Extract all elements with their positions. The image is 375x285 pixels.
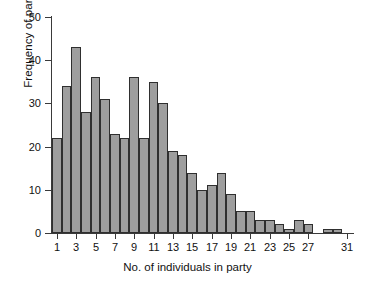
bar [217,173,227,233]
bar [333,229,343,233]
x-tick-mark [347,234,348,239]
x-tick-label: 31 [335,241,359,253]
y-tick-mark [45,147,51,148]
x-tick-mark [250,234,251,239]
x-tick-mark [192,234,193,239]
y-tick-label: 20 [1,142,41,152]
y-tick-mark [45,17,51,18]
bar [100,99,110,233]
bar [91,77,101,233]
bar [110,134,120,233]
bar [246,211,256,233]
bar [168,151,178,233]
bar [158,103,168,233]
y-tick-label: 50 [1,12,41,22]
bar [226,194,236,233]
y-tick-label: 10 [1,185,41,195]
bar [284,229,294,233]
x-tick-mark [212,234,213,239]
x-tick-mark [289,234,290,239]
bar [275,224,285,233]
y-tick-label: 30 [1,98,41,108]
x-tick-mark [57,234,58,239]
x-tick-mark [134,234,135,239]
x-tick-mark [173,234,174,239]
y-tick-label: 0 [1,228,41,238]
bar [265,220,275,233]
y-tick-mark [45,103,51,104]
x-tick-mark [154,234,155,239]
bar [139,138,149,233]
bar [187,173,197,233]
bar [294,220,304,233]
x-tick-mark [308,234,309,239]
plot-area [52,17,352,233]
x-tick-mark [115,234,116,239]
x-tick-label: 27 [296,241,320,253]
histogram-figure: Frequency of party sizes 01020304050 135… [0,0,375,285]
bar [81,112,91,233]
bar [129,77,139,233]
x-tick-mark [76,234,77,239]
y-tick-mark [45,190,51,191]
x-tick-mark [270,234,271,239]
y-tick-label: 40 [1,55,41,65]
bar [304,224,314,233]
bar [207,185,217,233]
x-tick-mark [96,234,97,239]
bar [62,86,72,233]
bar [323,229,333,233]
y-tick-mark [45,233,51,234]
bar [52,138,62,233]
x-axis-title: No. of individuals in party [0,261,375,273]
x-tick-mark [231,234,232,239]
bar [71,47,81,233]
bar [149,82,159,233]
bar [178,155,188,233]
bar [197,190,207,233]
bar [255,220,265,233]
bar [236,211,246,233]
bar [120,138,130,233]
y-tick-mark [45,60,51,61]
